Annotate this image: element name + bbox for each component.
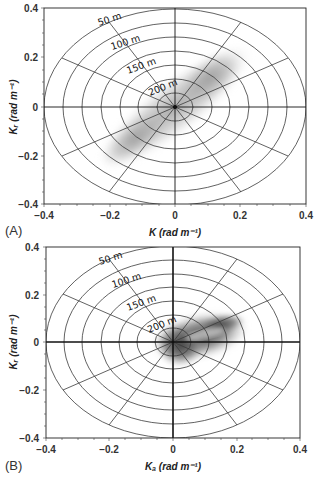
x-tick: −0.2: [100, 210, 120, 221]
y-tick: 0: [33, 337, 39, 348]
ring-label-100m: 100 m: [109, 32, 141, 52]
panel-b-y-ticks: 0.4 0.2 0 −0.2 −0.4: [19, 242, 39, 444]
x-tick: −0.2: [99, 444, 119, 455]
y-tick: −0.4: [19, 433, 39, 444]
ring-label-150m: 150 m: [125, 55, 157, 76]
x-tick: 0.2: [230, 444, 244, 455]
panel-a-x-axis-label: K (rad m⁻¹): [149, 227, 202, 238]
y-tick: 0.2: [24, 52, 38, 63]
panel-b-ring-labels: 50 m 100 m 150 m 200 m: [97, 249, 178, 335]
ring-label-50m: 50 m: [96, 10, 123, 28]
y-tick: −0.2: [19, 385, 39, 396]
y-tick: 0: [32, 102, 38, 113]
panel-b-density: [148, 305, 251, 368]
x-tick: 0.4: [299, 210, 313, 221]
y-tick: −0.4: [18, 199, 38, 210]
x-tick: 0.2: [233, 210, 247, 221]
panel-a: 50 m 100 m 150 m 200 m 0.4 0.2 0 −0.2 −0…: [5, 3, 313, 238]
x-tick: 0.4: [293, 444, 307, 455]
panel-b-y-axis-label: Kᵣ (rad m⁻¹): [8, 314, 19, 370]
ring-label-100m: 100 m: [110, 270, 142, 290]
panel-a-y-ticks: 0.4 0.2 0 −0.2 −0.4: [18, 3, 38, 210]
x-tick: −0.4: [34, 210, 54, 221]
panel-b-label: (B): [5, 458, 22, 473]
ring-label-150m: 150 m: [125, 292, 157, 313]
panel-a-x-ticks: −0.4 −0.2 0 0.2 0.4: [34, 210, 313, 221]
panel-b: 50 m 100 m 150 m 200 m 0.4 0.2 0 −0.2 −0…: [5, 242, 307, 473]
y-tick: 0.4: [24, 3, 38, 14]
y-tick: 0.2: [25, 290, 39, 301]
panel-b-x-axis-label: Kₐ (rad m⁻¹): [145, 461, 202, 472]
panel-b-x-ticks: −0.4 −0.2 0 0.2 0.4: [36, 444, 307, 455]
x-tick: 0: [172, 210, 178, 221]
y-tick: −0.2: [18, 151, 38, 162]
ring-label-50m: 50 m: [97, 249, 124, 267]
x-tick: 0: [170, 444, 176, 455]
panel-a-y-axis-label: Kᵣ (rad m⁻¹): [8, 79, 19, 135]
x-tick: −0.4: [36, 444, 56, 455]
y-tick: 0.4: [25, 242, 39, 253]
figure: 50 m 100 m 150 m 200 m 0.4 0.2 0 −0.2 −0…: [0, 0, 318, 479]
panel-a-label: (A): [5, 223, 22, 238]
